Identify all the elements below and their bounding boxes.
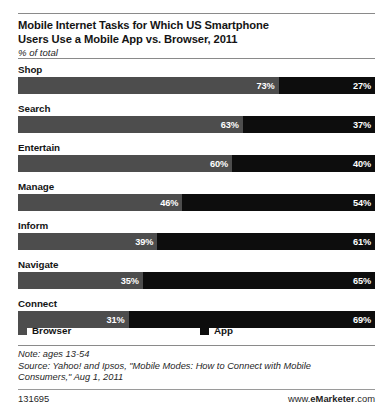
source-text-line-1: Source: Yahoo! and Ipsos, "Mobile Modes:… [18, 361, 375, 373]
bar-value-browser: 39% [135, 237, 157, 247]
brand-suffix: .com [355, 393, 375, 404]
chart-row: Search63%37% [18, 103, 375, 133]
legend-item-app: App [200, 325, 233, 336]
note-text: Note: ages 13-54 [18, 349, 375, 361]
source-text-line-2: Consumers," Aug 1, 2011 [18, 372, 375, 384]
chart-bar: 63%37% [18, 116, 375, 133]
chart-row-label: Navigate [18, 259, 375, 270]
bar-value-browser: 73% [257, 81, 279, 91]
chart-row-label: Entertain [18, 142, 375, 153]
bar-segment-browser: 73% [18, 77, 279, 94]
bar-segment-browser: 39% [18, 233, 157, 250]
chart-legend: Browser App [18, 325, 375, 339]
bar-segment-browser: 35% [18, 272, 143, 289]
chart-footer: 131695 www.eMarketer.com [18, 393, 375, 404]
legend-swatch-browser-icon [18, 326, 27, 335]
chart-notes: Note: ages 13-54 Source: Yahoo! and Ipso… [18, 349, 375, 384]
bar-value-browser: 35% [121, 276, 143, 286]
bar-segment-browser: 60% [18, 155, 232, 172]
page-title-line-1: Mobile Internet Tasks for Which US Smart… [18, 19, 375, 33]
chart-bar: 39%61% [18, 233, 375, 250]
bar-segment-app: 65% [143, 272, 375, 289]
footer-divider [18, 389, 375, 390]
chart-row: Manage46%54% [18, 181, 375, 211]
chart-row: Connect31%69% [18, 298, 375, 328]
chart-row-label: Connect [18, 298, 375, 309]
legend-label-browser: Browser [32, 325, 71, 336]
bar-value-app: 69% [353, 315, 375, 325]
chart-row: Inform39%61% [18, 220, 375, 250]
chart-row: Shop73%27% [18, 64, 375, 94]
chart-row: Entertain60%40% [18, 142, 375, 172]
bar-segment-app: 27% [279, 77, 375, 94]
bar-value-app: 54% [353, 198, 375, 208]
chart-row-label: Manage [18, 181, 375, 192]
bar-segment-app: 54% [182, 194, 375, 211]
bar-segment-app: 61% [157, 233, 375, 250]
chart-bar: 35%65% [18, 272, 375, 289]
bar-value-app: 61% [353, 237, 375, 247]
top-divider [18, 13, 375, 14]
chart-bar: 60%40% [18, 155, 375, 172]
chart-row-label: Inform [18, 220, 375, 231]
chart-id: 131695 [18, 393, 49, 404]
brand-name: eMarketer [310, 393, 354, 404]
chart-sheet: Mobile Internet Tasks for Which US Smart… [0, 0, 392, 418]
chart-row-label: Search [18, 103, 375, 114]
stacked-bar-chart: Shop73%27%Search63%37%Entertain60%40%Man… [18, 64, 375, 337]
bar-segment-app: 40% [232, 155, 375, 172]
notes-divider [18, 345, 375, 346]
bar-value-browser: 46% [160, 198, 182, 208]
bar-segment-browser: 46% [18, 194, 182, 211]
bar-value-app: 40% [353, 159, 375, 169]
bar-value-browser: 31% [107, 315, 129, 325]
page-title-line-2: Users Use a Mobile App vs. Browser, 2011 [18, 33, 375, 47]
bar-value-app: 37% [353, 120, 375, 130]
bar-value-app: 65% [353, 276, 375, 286]
chart-header: Mobile Internet Tasks for Which US Smart… [18, 19, 375, 59]
chart-bar: 73%27% [18, 77, 375, 94]
brand-url: www.eMarketer.com [288, 393, 375, 404]
chart-row: Navigate35%65% [18, 259, 375, 289]
legend-item-browser: Browser [18, 325, 71, 336]
chart-bar: 46%54% [18, 194, 375, 211]
bar-value-app: 27% [353, 81, 375, 91]
bar-segment-browser: 63% [18, 116, 243, 133]
chart-row-label: Shop [18, 64, 375, 75]
legend-swatch-app-icon [200, 326, 209, 335]
bar-segment-app: 37% [243, 116, 375, 133]
bar-value-browser: 63% [221, 120, 243, 130]
bar-value-browser: 60% [210, 159, 232, 169]
legend-label-app: App [214, 325, 233, 336]
header-divider [18, 58, 375, 59]
brand-prefix: www. [288, 393, 310, 404]
